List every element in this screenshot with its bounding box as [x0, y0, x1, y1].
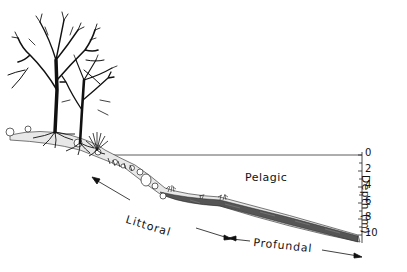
pelagic-zone-label: Pelagic	[245, 171, 287, 184]
depth-axis-label: Depth (m)	[360, 175, 372, 234]
diagram-canvas	[0, 0, 407, 272]
large-tree-icon	[8, 12, 104, 132]
depth-tick-0: 0	[365, 148, 371, 158]
depth-tick-2: 2	[365, 164, 371, 174]
